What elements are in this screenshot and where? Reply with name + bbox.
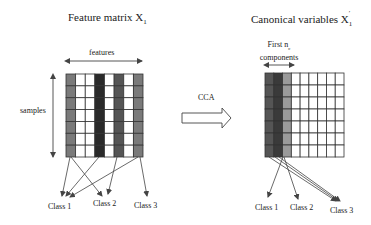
- matrix-cell: [114, 86, 124, 98]
- matrix-cell: [95, 86, 105, 98]
- feature-matrix-grid: [66, 74, 143, 157]
- matrix-cell: [274, 145, 283, 157]
- matrix-cell: [274, 73, 283, 85]
- matrix-cell: [76, 145, 86, 157]
- matrix-cell: [85, 145, 95, 157]
- matrix-cell: [76, 110, 86, 122]
- matrix-cell: [95, 110, 105, 122]
- matrix-cell: [133, 133, 143, 145]
- cca-arrow: [182, 108, 231, 128]
- matrix-cell: [283, 73, 292, 85]
- samples-label: samples: [20, 106, 46, 115]
- matrix-cell: [114, 145, 124, 157]
- matrix-cell: [283, 145, 292, 157]
- matrix-cell: [95, 98, 105, 110]
- matrix-cell: [291, 97, 300, 109]
- matrix-cell: [300, 145, 309, 157]
- canonical-variables-grid: [265, 73, 344, 157]
- matrix-cell: [318, 145, 327, 157]
- matrix-cell: [124, 133, 134, 145]
- matrix-cell: [76, 121, 86, 133]
- matrix-cell: [85, 86, 95, 98]
- matrix-cell: [66, 145, 76, 157]
- matrix-cell: [326, 85, 335, 97]
- matrix-cell: [133, 121, 143, 133]
- matrix-cell: [124, 74, 134, 86]
- left-class-arrows: [62, 157, 147, 197]
- matrix-cell: [326, 97, 335, 109]
- matrix-cell: [335, 133, 344, 145]
- matrix-cell: [85, 98, 95, 110]
- matrix-cell: [95, 74, 105, 86]
- right-class-2-label: Class 2: [290, 203, 313, 212]
- matrix-cell: [66, 86, 76, 98]
- matrix-cell: [300, 97, 309, 109]
- matrix-cell: [124, 145, 134, 157]
- left-class-1-label: Class 1: [48, 202, 71, 211]
- matrix-cell: [265, 133, 274, 145]
- matrix-cell: [85, 110, 95, 122]
- matrix-cell: [76, 86, 86, 98]
- right-class-1-label: Class 1: [255, 203, 278, 212]
- matrix-cell: [283, 97, 292, 109]
- matrix-cell: [318, 73, 327, 85]
- matrix-cell: [300, 73, 309, 85]
- matrix-cell: [85, 133, 95, 145]
- matrix-cell: [105, 133, 115, 145]
- matrix-cell: [66, 74, 76, 86]
- matrix-cell: [326, 109, 335, 121]
- matrix-cell: [265, 121, 274, 133]
- matrix-cell: [318, 121, 327, 133]
- first-nc-components-label: First nc components: [258, 40, 300, 62]
- matrix-cell: [274, 109, 283, 121]
- matrix-cell: [133, 145, 143, 157]
- matrix-cell: [283, 85, 292, 97]
- matrix-cell: [66, 110, 76, 122]
- cca-label: CCA: [198, 93, 214, 102]
- matrix-cell: [85, 74, 95, 86]
- matrix-cell: [114, 98, 124, 110]
- matrix-cell: [265, 85, 274, 97]
- feature-matrix-title: Feature matrix X1: [68, 11, 147, 26]
- matrix-cell: [335, 109, 344, 121]
- matrix-cell: [274, 97, 283, 109]
- matrix-cell: [133, 86, 143, 98]
- matrix-cell: [300, 133, 309, 145]
- matrix-cell: [95, 121, 105, 133]
- matrix-cell: [105, 98, 115, 110]
- matrix-cell: [318, 133, 327, 145]
- matrix-cell: [309, 85, 318, 97]
- matrix-cell: [105, 86, 115, 98]
- matrix-cell: [326, 121, 335, 133]
- matrix-cell: [76, 98, 86, 110]
- matrix-cell: [326, 145, 335, 157]
- matrix-cell: [124, 121, 134, 133]
- matrix-cell: [291, 85, 300, 97]
- matrix-cell: [283, 121, 292, 133]
- matrix-cell: [114, 110, 124, 122]
- left-class-2-label: Class 2: [93, 199, 116, 208]
- matrix-cell: [265, 145, 274, 157]
- matrix-cell: [309, 145, 318, 157]
- matrix-cell: [274, 133, 283, 145]
- matrix-cell: [335, 121, 344, 133]
- matrix-cell: [105, 121, 115, 133]
- matrix-cell: [291, 121, 300, 133]
- matrix-cell: [291, 145, 300, 157]
- matrix-cell: [274, 85, 283, 97]
- matrix-cell: [105, 145, 115, 157]
- matrix-cell: [133, 110, 143, 122]
- right-class-3-label: Class 3: [330, 206, 353, 215]
- matrix-cell: [265, 109, 274, 121]
- matrix-cell: [133, 74, 143, 86]
- matrix-cell: [318, 97, 327, 109]
- matrix-cell: [283, 109, 292, 121]
- matrix-cell: [265, 97, 274, 109]
- matrix-cell: [300, 121, 309, 133]
- matrix-cell: [283, 133, 292, 145]
- matrix-cell: [114, 121, 124, 133]
- matrix-cell: [309, 109, 318, 121]
- matrix-cell: [105, 74, 115, 86]
- matrix-cell: [114, 133, 124, 145]
- matrix-cell: [335, 73, 344, 85]
